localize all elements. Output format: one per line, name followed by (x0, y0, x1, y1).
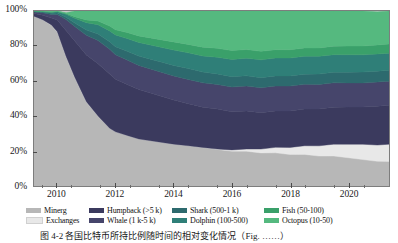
x-axis-tick-label: 2018 (281, 190, 300, 200)
legend-label-humpback: Humpback (>5 k) (107, 206, 162, 215)
legend-row: ExchangesWhale (1 k-5 k)Dolphin (100-500… (26, 216, 371, 225)
y-axis-tick-label: 100% (5, 5, 27, 15)
y-axis-tick-mark (33, 81, 37, 82)
x-axis-minor-tick (159, 185, 160, 188)
y-axis-tick-mark (33, 45, 37, 46)
x-axis-tick-label: 2014 (164, 190, 183, 200)
x-axis-minor-tick (130, 185, 131, 188)
legend-swatch-miners (26, 208, 41, 213)
figure-caption: 图 4-2 各国比特币所持比例随时间的相对变化情况（Fig. ……） (40, 231, 390, 242)
legend-item-shark[interactable]: Shark (500-1 k) (172, 206, 264, 215)
x-axis-minor-tick (217, 185, 218, 188)
figure-container: 100%80%60%40%20%0% 201020122014201620182… (0, 0, 398, 243)
chart-legend: MinergHumpback (>5 k)Shark (500-1 k)Fish… (26, 206, 371, 226)
y-axis-tick-label: 20% (10, 147, 27, 157)
x-axis-tick-mark (56, 183, 57, 188)
legend-label-shark: Shark (500-1 k) (190, 206, 238, 215)
legend-label-whale: Whale (1 k-5 k) (107, 216, 156, 225)
x-axis-minor-tick (334, 185, 335, 188)
x-axis-tick-label: 2016 (223, 190, 242, 200)
x-axis-minor-tick (71, 185, 72, 188)
y-axis-tick-label: 0% (15, 182, 27, 192)
plot-frame (33, 10, 390, 187)
y-axis-tick-mark (33, 116, 37, 117)
legend-item-octopus[interactable]: Octopus (10-50) (264, 216, 344, 225)
x-axis-tick-mark (232, 183, 233, 188)
legend-item-whale[interactable]: Whale (1 k-5 k) (89, 216, 172, 225)
legend-item-humpback[interactable]: Humpback (>5 k) (89, 206, 172, 215)
legend-swatch-dolphin (172, 218, 187, 223)
legend-label-octopus: Octopus (10-50) (282, 216, 332, 225)
legend-item-exchanges[interactable]: Exchanges (26, 216, 89, 225)
legend-swatch-octopus (264, 218, 279, 223)
y-axis-tick-label: 80% (10, 41, 27, 51)
x-axis-minor-tick (100, 185, 101, 188)
x-axis-tick-label: 2012 (106, 190, 125, 200)
legend-swatch-humpback (89, 208, 104, 213)
x-axis-minor-tick (305, 185, 306, 188)
x-axis-minor-tick (188, 185, 189, 188)
x-axis-tick-mark (173, 183, 174, 188)
x-axis-minor-tick (364, 185, 365, 188)
y-axis-tick-label: 40% (10, 111, 27, 121)
legend-label-fish: Fish (50-100) (282, 206, 324, 215)
plot-area (33, 10, 390, 187)
x-axis-minor-tick (42, 185, 43, 188)
legend-swatch-fish (264, 208, 279, 213)
legend-swatch-exchanges (26, 217, 43, 224)
legend-label-miners: Minerg (44, 206, 67, 215)
x-axis-tick-label: 2020 (340, 190, 359, 200)
legend-item-dolphin[interactable]: Dolphin (100-500) (172, 216, 264, 225)
y-axis-tick-mark (33, 152, 37, 153)
legend-row: MinergHumpback (>5 k)Shark (500-1 k)Fish… (26, 206, 371, 215)
legend-item-miners[interactable]: Minerg (26, 206, 89, 215)
x-axis-tick-mark (349, 183, 350, 188)
legend-label-exchanges: Exchanges (46, 216, 79, 225)
y-axis: 100%80%60%40%20%0% (0, 10, 31, 187)
x-axis-minor-tick (276, 185, 277, 188)
y-axis-tick-label: 60% (10, 76, 27, 86)
legend-swatch-shark (172, 208, 187, 213)
stacked-area-chart (34, 11, 389, 186)
x-axis-minor-tick (247, 185, 248, 188)
x-axis-tick-label: 2010 (47, 190, 66, 200)
legend-swatch-whale (89, 218, 104, 223)
legend-label-dolphin: Dolphin (100-500) (190, 216, 248, 225)
x-axis-tick-mark (291, 183, 292, 188)
x-axis-tick-mark (115, 183, 116, 188)
legend-item-fish[interactable]: Fish (50-100) (264, 206, 344, 215)
